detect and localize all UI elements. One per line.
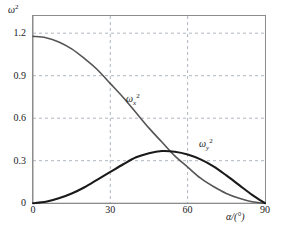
plot-frame bbox=[33, 16, 266, 204]
y-tick-label-1.2: 1.2 bbox=[2, 28, 26, 38]
x-tick-label-0: 0 bbox=[21, 205, 45, 215]
x-axis-title: α/(°) bbox=[226, 212, 245, 222]
x-tick-label-60: 60 bbox=[176, 205, 200, 215]
chart-figure: ω2 α/(°) 1.2 0.9 0.6 0.3 0 0 30 60 90 ωx… bbox=[0, 0, 290, 241]
curve-label-omega-x-exponent: 2 bbox=[136, 92, 140, 100]
y-axis-title: ω2 bbox=[8, 4, 19, 15]
curve-label-omega-x-subscript: x bbox=[133, 99, 136, 107]
y-tick-label-0.9: 0.9 bbox=[2, 71, 26, 81]
curve-label-omega-y: ωy2 bbox=[199, 138, 213, 152]
x-tick-label-90: 90 bbox=[253, 205, 277, 215]
x-tick-label-30: 30 bbox=[98, 205, 122, 215]
y-axis-title-omega: ω bbox=[8, 4, 15, 15]
y-axis-title-exponent: 2 bbox=[15, 3, 19, 11]
curve-label-omega-y-subscript: y bbox=[206, 144, 209, 152]
y-tick-label-0.6: 0.6 bbox=[2, 113, 26, 123]
curve-label-omega-y-exponent: 2 bbox=[209, 137, 213, 145]
curve-label-omega-y-omega: ω bbox=[199, 138, 206, 149]
curve-label-omega-x-omega: ω bbox=[126, 93, 133, 104]
curve-label-omega-x: ωx2 bbox=[126, 93, 140, 107]
y-tick-label-0.3: 0.3 bbox=[2, 156, 26, 166]
